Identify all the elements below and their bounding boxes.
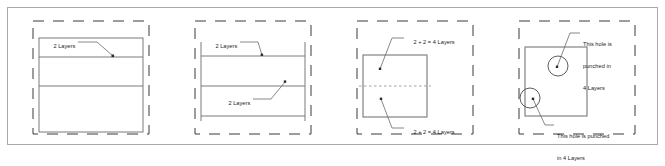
panel-3-label-four-layers-upper: 2 + 2 = 4 Layers	[407, 32, 455, 54]
panel-4-hole-lower	[520, 88, 540, 108]
panel-2-leader-arrow-1	[261, 54, 263, 56]
panel-3-leader-line-1	[380, 38, 404, 69]
panel-4-label-upper-line-2: punched in	[583, 63, 612, 70]
panel-2-label-lower-line-1: 2 Layers	[228, 100, 250, 106]
panel-4-leader-line-1	[557, 33, 580, 67]
panel-3-leader-arrow-1	[379, 68, 381, 70]
panel-2-leader-line-1	[240, 42, 262, 55]
panel-1-leader-line	[78, 42, 113, 56]
panel-4-sheet-rect	[525, 47, 587, 116]
panel-4-label-upper-line-1: This hole is	[583, 41, 612, 48]
panel-4-label-lower-line-1: This hole is punched	[557, 133, 609, 140]
panel-4-leader-line-2	[533, 99, 554, 125]
panel-3-label-four-layers-lower: 2 + 2 = 4 Layers	[407, 122, 455, 144]
panel-4-label-hole-upper: This hole is punched in 4 Layers	[583, 27, 612, 106]
panel-3-leader-line-2	[381, 99, 404, 128]
panel-3-leader-arrow-2	[380, 98, 382, 100]
panel-2-leader-line-2	[253, 82, 285, 99]
layer-punching-figure: 2 Layers 2 Layers 2 Layers 2 + 2 = 4 Lay…	[0, 0, 665, 166]
panel-2-label-two-layers-lower: 2 Layers	[222, 93, 250, 115]
panel-3-label-lower-line-1: 2 + 2 = 4 Layers	[413, 129, 454, 135]
panel-1-label-line-1: 2 Layers	[53, 43, 75, 49]
panel-2-leader-arrow-2	[284, 80, 286, 82]
panel-4-label-upper-line-3: 4 Layers	[583, 85, 612, 92]
panel-4-leader-arrow-1	[556, 66, 558, 68]
panel-2-label-upper-line-1: 2 Layers	[215, 43, 237, 49]
panel-4-leader-arrow-2	[532, 98, 534, 100]
panel-4-dashed-box	[519, 21, 635, 134]
panel-1-leader-arrow	[112, 55, 115, 58]
panel-4-label-hole-lower: This hole is punched in 4 Layers	[557, 119, 609, 166]
panel-2-label-two-layers-upper: 2 Layers	[209, 36, 237, 58]
panel-1-label-two-layers: 2 Layers	[47, 36, 75, 58]
panel-4-group	[519, 21, 635, 134]
panel-4-label-lower-line-2: in 4 Layers	[557, 155, 609, 162]
panel-3-label-upper-line-1: 2 + 2 = 4 Layers	[413, 39, 454, 45]
